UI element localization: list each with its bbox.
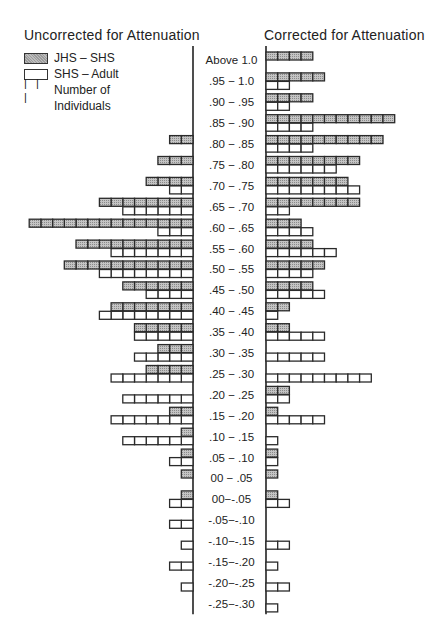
right-bar-shs-cell [325,186,337,194]
right-bar-jhs-cell [313,177,325,185]
right-bar-shs-cell [278,81,290,89]
left-bar-jhs-cell [123,198,135,206]
right-bar-jhs-cell [336,136,348,144]
right-bar-shs-cell [289,228,301,236]
right-bar-shs-cell [336,186,348,194]
left-bar-shs-cell [123,207,135,215]
category-label: .05 − .10 [209,452,254,464]
left-bar-shs-cell [135,437,147,445]
left-bar-shs-cell [170,270,182,278]
right-bar-jhs-cell [348,198,360,206]
left-bar-shs-cell [135,332,147,340]
left-bar-shs-cell [111,374,123,382]
right-bar-shs-cell [278,207,290,215]
category-label: 00 − .05 [211,472,253,484]
right-bar-shs-cell [278,416,290,424]
left-bar-shs-cell [146,437,158,445]
right-bar-jhs-cell [325,157,337,165]
left-bar-jhs-cell [123,261,135,269]
category-label: .75 − .80 [209,159,254,171]
category-label: .65 − .70 [209,201,254,213]
left-bar-jhs-cell [181,219,193,227]
right-bar-jhs-cell [301,261,313,269]
left-bar-shs-cell [123,249,135,257]
left-bar-jhs-cell [123,240,135,248]
left-bar-shs-cell [181,270,193,278]
right-bar-shs-cell [348,374,360,382]
category-label: Above 1.0 [206,54,258,66]
right-bar-jhs-cell [278,177,290,185]
left-bar-shs-cell [146,249,158,257]
left-bar-jhs-cell [158,303,170,311]
right-bar-jhs-cell [266,157,278,165]
right-bar-jhs-cell [266,177,278,185]
right-bar-shs-cell [266,165,278,173]
right-bar-shs-cell [289,332,301,340]
left-bar-shs-cell [170,395,182,403]
left-bar-shs-cell [158,437,170,445]
right-bar-jhs-cell [313,115,325,123]
left-bar-shs-cell [170,353,182,361]
right-bar-jhs-cell [289,52,301,60]
right-bar-jhs-cell [383,115,395,123]
right-bar-jhs-cell [278,94,290,102]
right-bar-jhs-cell [278,324,290,332]
right-bar-shs-cell [266,499,278,507]
right-bar-shs-cell [266,186,278,194]
right-bar-shs-cell [289,144,301,152]
left-bar-shs-cell [170,499,182,507]
left-bar-jhs-cell [76,240,88,248]
left-bar-shs-cell [135,353,147,361]
right-bar-jhs-cell [360,115,372,123]
left-bar-shs-cell [181,332,193,340]
right-bar-shs-cell [348,186,360,194]
left-bar-shs-cell [170,520,182,528]
left-bar-shs-cell [158,228,170,236]
left-bar-shs-cell [181,374,193,382]
right-bar-jhs-cell [289,282,301,290]
right-bar-shs-cell [278,374,290,382]
left-bar-jhs-cell [99,261,111,269]
left-bar-jhs-cell [181,449,193,457]
chart: Above 1.0.95 − 1.0.90 − .95.85 − .90.80 … [0,0,433,626]
category-label: -.20−-.25 [208,577,254,589]
right-bar-shs-cell [266,604,278,612]
right-bar-shs-cell [289,270,301,278]
right-bar-shs-cell [301,228,313,236]
left-bar-jhs-cell [146,282,158,290]
right-bar-shs-cell [266,270,278,278]
right-bar-jhs-cell [371,136,383,144]
right-bar-jhs-cell [348,136,360,144]
left-bar-shs-cell [135,374,147,382]
left-bar-jhs-cell [99,219,111,227]
right-bar-shs-cell [266,562,278,570]
right-bar-jhs-cell [266,407,278,415]
right-bar-shs-cell [266,395,278,403]
category-label: .40 − .45 [209,305,254,317]
left-bar-shs-cell [123,270,135,278]
left-bar-shs-cell [181,207,193,215]
right-bar-shs-cell [266,332,278,340]
right-bar-jhs-cell [266,261,278,269]
left-bar-shs-cell [111,311,123,319]
right-bar-jhs-cell [266,303,278,311]
category-label: .30 − .35 [209,347,254,359]
category-label: -.25−-.30 [208,598,254,610]
left-bar-jhs-cell [88,240,100,248]
left-bar-jhs-cell [146,240,158,248]
right-bar-jhs-cell [278,261,290,269]
left-bar-shs-cell [146,395,158,403]
left-bar-shs-cell [135,270,147,278]
left-bar-jhs-cell [123,282,135,290]
right-bar-jhs-cell [289,115,301,123]
right-bar-shs-cell [301,123,313,131]
right-bar-shs-cell [325,165,337,173]
right-bar-jhs-cell [289,94,301,102]
left-bar-jhs-cell [158,240,170,248]
left-bar-shs-cell [158,311,170,319]
left-bar-jhs-cell [99,198,111,206]
left-bar-shs-cell [111,249,123,257]
right-bar-shs-cell [278,144,290,152]
left-bar-jhs-cell [99,240,111,248]
right-bar-shs-cell [278,332,290,340]
